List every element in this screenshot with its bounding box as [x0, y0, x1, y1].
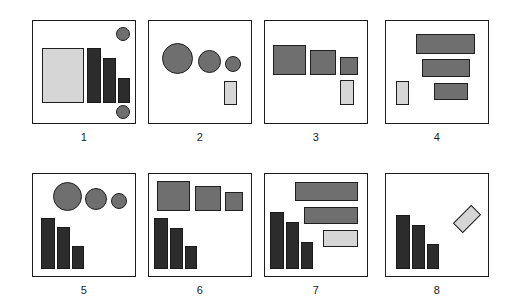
panel-2-frame: [148, 20, 252, 124]
panel-3-light-vertical-rect: [340, 80, 354, 105]
panel-4-grey-bar-medium: [422, 59, 470, 77]
panel-1-frame: [32, 20, 136, 124]
panel-7: 7: [264, 173, 368, 299]
panel-7-frame: [264, 173, 368, 277]
panel-6-dark-bar-2: [170, 228, 183, 269]
panel-label-2: 2: [148, 130, 252, 144]
panel-7-grey-bar-long: [295, 182, 358, 201]
panel-1-circle-bottom-right: [116, 105, 130, 119]
panel-4-grey-bar-short: [434, 83, 468, 100]
panel-4-light-vertical-rect: [396, 81, 409, 105]
panel-5-frame: [32, 173, 136, 277]
panel-7-dark-bar-2: [286, 222, 299, 269]
panel-6-dark-bar-1: [154, 218, 168, 269]
panel-5-dark-bar-3: [72, 246, 84, 269]
panel-5-dark-bar-2: [57, 227, 70, 269]
panel-1-dark-bar-3: [118, 78, 130, 103]
panel-1-circle-top-right: [116, 27, 130, 41]
panel-label-1: 1: [32, 130, 136, 144]
panel-8-dark-bar-3: [427, 244, 439, 269]
panel-4-frame: [385, 20, 489, 124]
panel-1: 1: [32, 20, 136, 146]
panel-5: 5: [32, 173, 136, 299]
panel-4: 4: [385, 20, 489, 146]
panel-figure: 12345678: [0, 0, 506, 307]
panel-8-dark-bar-1: [396, 215, 410, 269]
panel-label-6: 6: [148, 283, 252, 297]
panel-1-large-light-square: [42, 48, 84, 103]
panel-8-dark-bar-2: [412, 225, 425, 269]
panel-6-frame: [148, 173, 252, 277]
panel-label-7: 7: [264, 283, 368, 297]
panel-1-dark-bar-2: [103, 58, 116, 103]
panel-7-dark-bar-1: [270, 212, 284, 269]
panel-6-grey-square-medium: [195, 186, 221, 211]
panel-5-circle-large: [53, 182, 82, 211]
panel-6-grey-square-large: [157, 181, 190, 211]
panel-5-circle-medium: [85, 188, 107, 210]
panel-2-light-vertical-rect: [224, 81, 237, 105]
panel-3-grey-square-large: [273, 45, 306, 75]
panel-6: 6: [148, 173, 252, 299]
panel-6-dark-bar-3: [185, 246, 197, 269]
panel-2-circle-large: [162, 43, 193, 74]
panel-2: 2: [148, 20, 252, 146]
panel-label-8: 8: [385, 283, 489, 297]
panel-3-frame: [264, 20, 368, 124]
panel-label-5: 5: [32, 283, 136, 297]
panel-1-dark-bar-1: [87, 48, 101, 103]
panel-3-grey-square-small: [340, 57, 358, 75]
panel-label-3: 3: [264, 130, 368, 144]
panel-8: 8: [385, 173, 489, 299]
panel-5-dark-bar-1: [41, 218, 55, 269]
panel-7-dark-bar-3: [301, 242, 313, 269]
panel-7-light-bar-small: [323, 230, 358, 247]
panel-3-grey-square-medium: [310, 50, 336, 75]
panel-2-circle-medium: [198, 50, 221, 73]
panel-8-light-rotated-diamond: [453, 205, 481, 233]
panel-8-frame: [385, 173, 489, 277]
panel-label-4: 4: [385, 130, 489, 144]
panel-2-circle-small: [225, 56, 241, 72]
panel-4-grey-bar-long: [416, 34, 475, 54]
panel-5-circle-small: [111, 193, 127, 209]
panel-6-grey-square-small: [225, 192, 243, 211]
panel-7-grey-bar-medium: [304, 207, 358, 224]
panel-3: 3: [264, 20, 368, 146]
